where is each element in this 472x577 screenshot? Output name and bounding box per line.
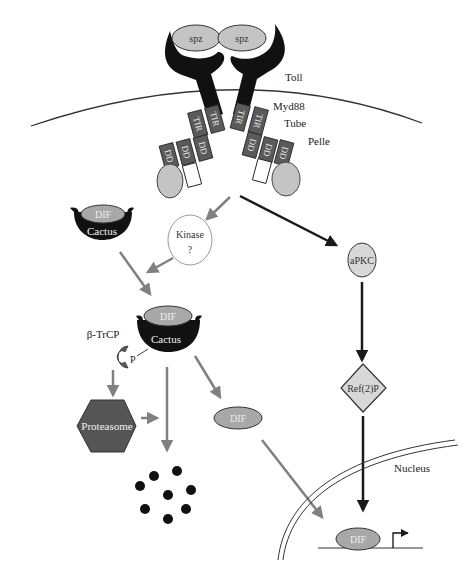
dif-cactus-complex-top: DIF Cactus: [70, 205, 134, 240]
adaptor-complex-left: TIR TIR DD DD DD: [157, 105, 225, 198]
arrow-pelle-to-apkc: [240, 196, 336, 245]
pelle-label: Pelle: [308, 135, 330, 147]
cactus-label-top: Cactus: [87, 225, 117, 237]
apkc-node: aPKC: [348, 243, 376, 277]
dif-free: DIF: [214, 407, 262, 429]
arrow-dif-to-nucleus: [262, 440, 322, 517]
nucleus-label: Nucleus: [394, 462, 430, 474]
spz-ligand-left: spz: [172, 25, 220, 51]
toll-label: Toll: [285, 71, 303, 83]
dif-cactus-complex-mid: DIF Cactus: [136, 306, 202, 352]
btrcp-ubiquitin-ligase: β-TrCP P: [87, 328, 148, 368]
apkc-label: aPKC: [350, 255, 374, 266]
kinase-question: ?: [188, 244, 193, 255]
tube-label: Tube: [284, 117, 306, 129]
myd88-label: Myd88: [273, 100, 305, 112]
kinase-node: Kinase ?: [168, 215, 212, 265]
spz-label-right: spz: [235, 33, 249, 44]
arrow-kinase-to-complex: [148, 258, 173, 272]
dif-label-top: DIF: [95, 209, 112, 220]
ref2p-node: Ref(2)P: [341, 364, 386, 412]
arrow-complex-to-dif: [195, 356, 220, 397]
plasma-membrane: [31, 90, 422, 126]
kinase-label: Kinase: [176, 229, 204, 240]
dif-free-label: DIF: [230, 413, 247, 424]
spz-ligand-right: spz: [218, 25, 266, 51]
dif-label-mid: DIF: [160, 311, 177, 322]
p-label: P: [130, 354, 136, 365]
btrcp-label: β-TrCP: [87, 328, 120, 340]
dif-nuclear-label: DIF: [350, 534, 367, 545]
spz-label-left: spz: [189, 33, 203, 44]
toll-pathway-diagram: spz spz TIR TIR DD DD DD: [0, 0, 472, 577]
ref2p-label: Ref(2)P: [347, 383, 379, 395]
cactus-label-mid: Cactus: [151, 333, 181, 345]
proteasome: Proteasome: [77, 400, 136, 452]
arrow-pelle-to-kinase: [207, 197, 230, 219]
proteasome-label: Proteasome: [81, 420, 132, 432]
arrow-complex-top-down: [120, 252, 150, 294]
nuclear-dif-on-dna: DIF: [318, 528, 423, 550]
degraded-fragments: [135, 466, 196, 524]
